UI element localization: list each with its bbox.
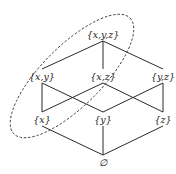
- node-label: {y}: [94, 114, 111, 125]
- node-x: {x}: [33, 114, 50, 125]
- node-xyz: {x,y,z}: [87, 29, 120, 40]
- highlight-group: [0, 0, 151, 155]
- edge-xyz-xy: [42, 41, 103, 69]
- node-empty: ∅: [99, 157, 108, 168]
- node-label: {x,y}: [29, 71, 55, 82]
- node-y: {y}: [94, 114, 111, 125]
- nodes-group: {x,y,z}{x,y}{x,z}{y,z}{x}{y}{z}∅: [29, 29, 175, 168]
- node-xy: {x,y}: [29, 71, 55, 82]
- edge-z-empty: [103, 126, 163, 155]
- edge-xyz-yz: [103, 41, 163, 69]
- node-xz: {x,z}: [90, 71, 115, 82]
- edge-x-empty: [42, 126, 103, 155]
- node-label: {x,z}: [90, 71, 115, 82]
- dashed-ellipse-highlight: [0, 0, 151, 155]
- node-label: {x}: [33, 114, 50, 125]
- node-label: {z}: [154, 114, 171, 125]
- edges-group: [42, 41, 163, 155]
- diagram-canvas: {x,y,z}{x,y}{x,z}{y,z}{x}{y}{z}∅: [0, 0, 176, 174]
- node-z: {z}: [154, 114, 171, 125]
- node-yz: {y,z}: [151, 71, 175, 82]
- node-label: {y,z}: [151, 71, 175, 82]
- node-label: {x,y,z}: [87, 29, 120, 40]
- hasse-diagram: {x,y,z}{x,y}{x,z}{y,z}{x}{y}{z}∅: [0, 0, 176, 174]
- node-label: ∅: [99, 157, 108, 168]
